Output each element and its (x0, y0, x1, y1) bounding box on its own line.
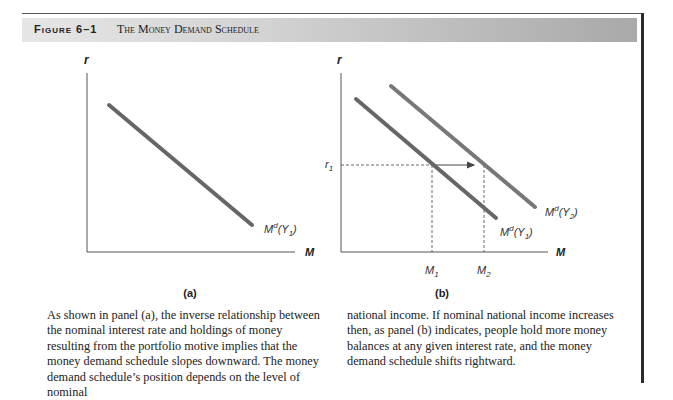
panel-a: r M Md(Y1) (a) (84, 53, 315, 299)
caption-left: As shown in panel (a), the inverse relat… (47, 308, 327, 400)
panel-b-y-axis-label: r (337, 53, 343, 67)
panel-a-label: (a) (183, 287, 197, 299)
panel-a-md-y1-curve (109, 105, 252, 225)
panel-b: r M r1 M1 M2 Md(Y1) Md(Y2) (b) (325, 53, 578, 299)
panel-b-x-axis-label: M (556, 246, 566, 258)
panel-b-label: (b) (435, 287, 449, 299)
panel-b-md-y1-label: Md(Y1) (500, 224, 533, 241)
panel-a-curve-label: Md(Y1) (264, 221, 297, 238)
panel-b-md-y2-label: Md(Y2) (545, 204, 578, 221)
m1-tick-label: M1 (425, 264, 439, 279)
caption-right: national income. If nominal national inc… (347, 308, 627, 370)
r1-tick-label: r1 (325, 158, 333, 173)
panel-a-y-axis-label: r (84, 53, 90, 67)
m2-tick-label: M2 (477, 264, 491, 279)
panel-a-x-axis-label: M (305, 246, 315, 258)
